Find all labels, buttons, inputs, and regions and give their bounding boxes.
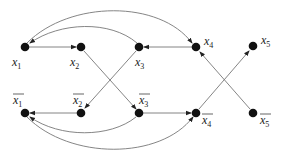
- label-x1: x1: [11, 55, 21, 71]
- edge-x5bar-to-x4: [200, 52, 250, 109]
- label-x4bar: x4: [201, 113, 211, 129]
- node-x1: [21, 43, 30, 52]
- label-x3: x3: [134, 55, 144, 71]
- label-x3bar: x3: [138, 93, 148, 109]
- node-x5: [249, 42, 258, 51]
- node-x3: [135, 43, 144, 52]
- edge-x3bar-to-x1bar: [30, 117, 136, 133]
- label-x4: x4: [203, 34, 213, 50]
- edge-x1-to-x4: [27, 11, 192, 43]
- node-x3bar: [135, 109, 144, 118]
- label-x5: x5: [260, 33, 270, 49]
- directed-graph: x1x2x3x4x5x1x2x3x4x5: [0, 0, 281, 157]
- edges-group: [27, 11, 250, 150]
- node-x4: [192, 43, 201, 52]
- node-x4bar: [192, 109, 201, 118]
- label-x2bar: x2: [72, 93, 82, 109]
- label-x5bar: x5: [259, 113, 269, 129]
- label-x2: x2: [69, 55, 79, 71]
- node-x5bar: [249, 109, 258, 118]
- edge-x3-to-x2bar: [85, 51, 136, 108]
- node-x1bar: [21, 109, 30, 118]
- node-x2: [77, 43, 86, 52]
- label-x1bar: x1: [12, 93, 22, 109]
- edge-x1bar-to-x4bar: [27, 117, 193, 149]
- node-x2bar: [77, 109, 86, 118]
- edge-x3-to-x1: [30, 26, 137, 43]
